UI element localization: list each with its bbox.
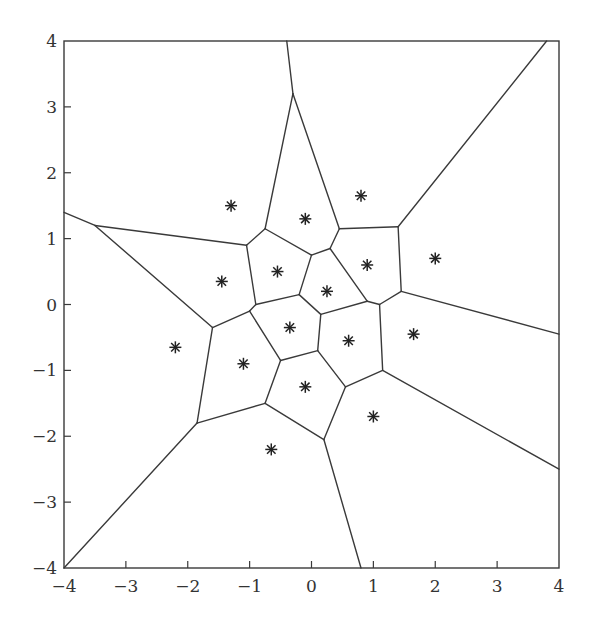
site-asterisk-icon: [237, 358, 249, 370]
y-tick-label: −3: [32, 492, 57, 512]
voronoi-edge: [299, 255, 311, 295]
voronoi-edge: [380, 291, 402, 304]
site-asterisk-icon: [355, 190, 367, 202]
voronoi-edge: [383, 370, 559, 469]
voronoi-sites: [169, 190, 441, 456]
voronoi-edge: [330, 249, 367, 302]
voronoi-edges: [64, 41, 559, 568]
voronoi-edge: [321, 301, 367, 314]
voronoi-edge: [95, 225, 247, 245]
voronoi-edge: [339, 227, 398, 229]
x-tick-label: 4: [554, 576, 565, 596]
voronoi-edge: [265, 94, 293, 229]
y-tick-label: −2: [32, 426, 57, 446]
site-asterisk-icon: [299, 381, 311, 393]
voronoi-edge: [265, 360, 280, 403]
voronoi-edge: [64, 212, 95, 225]
voronoi-edge: [213, 311, 250, 327]
site-asterisk-icon: [225, 200, 237, 212]
site-asterisk-icon: [367, 410, 379, 422]
x-axis: [126, 561, 497, 568]
site-asterisk-icon: [271, 266, 283, 278]
x-tick-label: −4: [51, 576, 76, 596]
voronoi-edge: [250, 305, 256, 312]
voronoi-edge: [197, 328, 212, 424]
y-axis: [64, 107, 71, 502]
voronoi-edge: [324, 387, 346, 440]
voronoi-edge: [318, 351, 346, 387]
voronoi-edge: [197, 403, 265, 423]
site-asterisk-icon: [216, 275, 228, 287]
x-tick-label: 3: [492, 576, 503, 596]
voronoi-edge: [256, 295, 299, 305]
site-asterisk-icon: [284, 322, 296, 334]
voronoi-edge: [95, 225, 213, 327]
y-tick-labels: −4−3−2−101234: [32, 31, 57, 578]
voronoi-edge: [265, 403, 324, 439]
x-tick-label: −1: [237, 576, 262, 596]
site-asterisk-icon: [361, 259, 373, 271]
x-tick-labels: −4−3−2−101234: [51, 576, 564, 596]
voronoi-edge: [346, 370, 383, 386]
voronoi-edge: [265, 229, 311, 255]
voronoi-edge: [293, 94, 339, 229]
voronoi-edge: [380, 305, 383, 371]
x-tick-label: 2: [430, 576, 441, 596]
plot-frame: [64, 41, 559, 568]
site-asterisk-icon: [429, 252, 441, 264]
y-tick-label: 2: [46, 163, 57, 183]
voronoi-edge: [312, 249, 331, 256]
voronoi-edge: [247, 245, 256, 304]
x-tick-label: 0: [306, 576, 317, 596]
voronoi-edge: [398, 227, 401, 292]
voronoi-edge: [299, 295, 321, 315]
voronoi-figure: −4−3−2−101234 −4−3−2−101234: [0, 0, 591, 626]
voronoi-edge: [318, 314, 321, 350]
site-asterisk-icon: [299, 213, 311, 225]
y-tick-label: 0: [46, 295, 57, 315]
y-tick-label: 3: [46, 97, 57, 117]
site-asterisk-icon: [265, 443, 277, 455]
y-tick-label: 4: [46, 31, 57, 51]
voronoi-edge: [330, 229, 339, 249]
voronoi-edge: [64, 423, 197, 568]
x-tick-label: −2: [175, 576, 200, 596]
voronoi-edge: [247, 229, 266, 245]
voronoi-edge: [398, 41, 547, 227]
y-tick-label: 1: [46, 229, 57, 249]
voronoi-edge: [367, 301, 379, 304]
y-tick-label: −1: [32, 360, 57, 380]
y-tick-label: −4: [32, 558, 57, 578]
voronoi-edge: [401, 291, 559, 334]
voronoi-edge: [287, 41, 293, 94]
site-asterisk-icon: [321, 285, 333, 297]
x-tick-label: 1: [368, 576, 379, 596]
x-tick-label: −3: [113, 576, 138, 596]
voronoi-edge: [281, 351, 318, 361]
site-asterisk-icon: [169, 341, 181, 353]
voronoi-edge: [324, 440, 361, 568]
voronoi-edge: [250, 311, 281, 360]
site-asterisk-icon: [343, 335, 355, 347]
site-asterisk-icon: [408, 328, 420, 340]
